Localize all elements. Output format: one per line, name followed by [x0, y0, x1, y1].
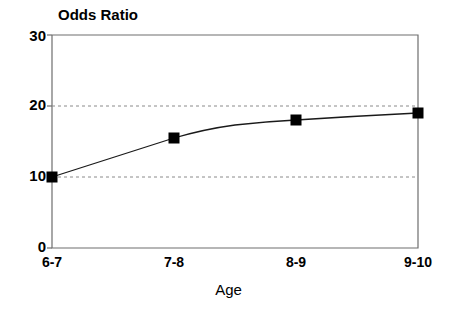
data-point-marker-2 — [291, 115, 302, 126]
x-axis-title: Age — [0, 281, 457, 298]
data-series-line — [52, 113, 418, 177]
x-axis-tick-label-7-8: 7-8 — [139, 254, 209, 270]
y-axis-tick-label-20: 20 — [8, 96, 46, 113]
data-point-marker-3 — [413, 108, 424, 119]
x-axis-tick-label-9-10: 9-10 — [383, 254, 453, 270]
chart-title: Odds Ratio — [58, 6, 138, 23]
y-axis-tick-label-30: 30 — [8, 27, 46, 44]
data-point-marker-0 — [47, 172, 58, 183]
plot-frame — [52, 35, 418, 248]
y-axis-tick-label-10: 10 — [8, 167, 46, 184]
y-axis-ticks — [47, 35, 52, 248]
x-axis-tick-label-6-7: 6-7 — [17, 254, 87, 270]
data-point-marker-1 — [169, 133, 180, 144]
x-axis-tick-label-8-9: 8-9 — [261, 254, 331, 270]
data-point-markers — [47, 108, 424, 183]
odds-ratio-line-chart: Odds Ratio 30 20 10 0 6-7 7-8 8-9 9-10 A… — [0, 0, 457, 314]
y-axis-tick-label-0: 0 — [8, 238, 46, 255]
